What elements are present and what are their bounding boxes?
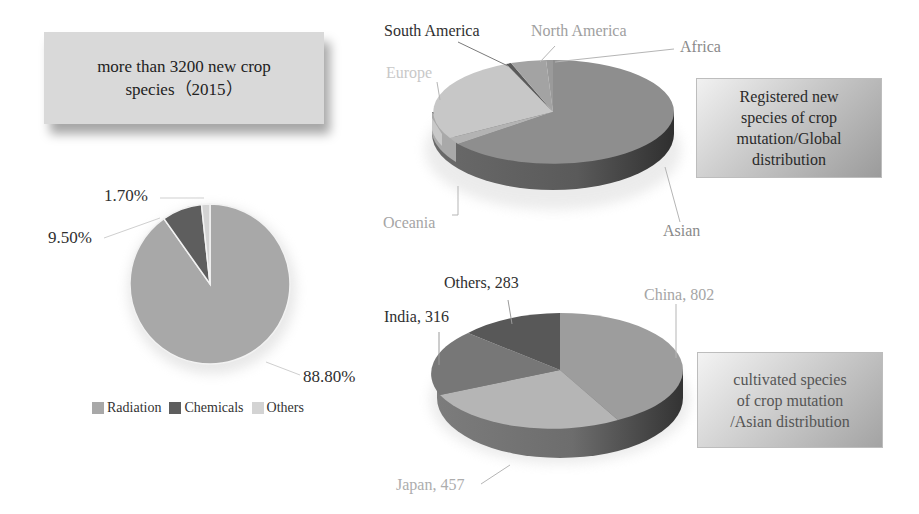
label-japan: Japan, 457 <box>396 476 464 494</box>
legend-label-radiation: Radiation <box>107 400 161 416</box>
label-asia-others: Others, 283 <box>444 274 519 292</box>
label-north-america: North America <box>531 22 627 40</box>
legend-swatch-chemicals <box>169 402 181 414</box>
label-africa: Africa <box>680 38 721 56</box>
label-oceania: Oceania <box>383 214 435 232</box>
legend-item-radiation: Radiation <box>92 400 161 416</box>
global-distribution-box: Registered new species of crop mutation/… <box>696 78 882 178</box>
global-box-line3: mutation/Global <box>737 128 842 149</box>
legend-label-chemicals: Chemicals <box>184 400 243 416</box>
global-box-line2: species of crop <box>737 107 842 128</box>
label-others-pct: 1.70% <box>104 186 148 206</box>
asian-box-line1: cultivated species <box>730 369 850 390</box>
label-radiation-pct: 88.80% <box>303 367 355 387</box>
label-china: China, 802 <box>644 286 714 304</box>
global-box-line1: Registered new <box>737 86 842 107</box>
label-south-america: South America <box>384 22 480 40</box>
methods-legend: Radiation Chemicals Others <box>92 400 308 416</box>
label-europe: Europe <box>386 64 432 82</box>
label-asian: Asian <box>663 222 700 240</box>
asian-pie <box>430 300 690 484</box>
global-box-line4: distribution <box>737 149 842 170</box>
legend-swatch-others <box>252 402 264 414</box>
asian-box-line3: /Asian distribution <box>730 411 850 432</box>
methods-pie <box>104 198 300 375</box>
legend-item-others: Others <box>252 400 304 416</box>
global-pie <box>425 42 681 222</box>
asian-box-line2: of crop mutation <box>730 390 850 411</box>
label-india: India, 316 <box>384 308 449 326</box>
asian-distribution-box: cultivated species of crop mutation /Asi… <box>697 352 883 448</box>
label-chemicals-pct: 9.50% <box>48 228 92 248</box>
legend-swatch-radiation <box>92 402 104 414</box>
legend-item-chemicals: Chemicals <box>169 400 243 416</box>
legend-label-others: Others <box>267 400 304 416</box>
